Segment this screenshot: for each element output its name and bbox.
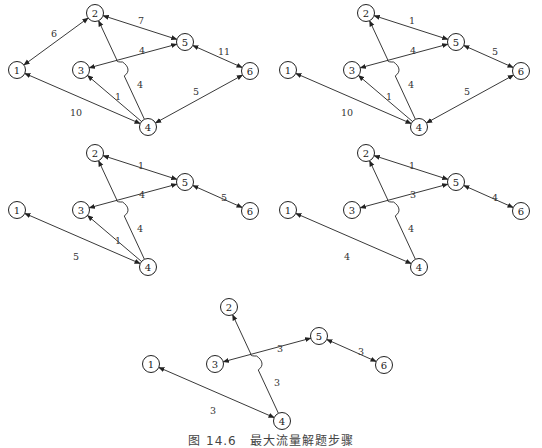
node-label: 6 [518,66,524,77]
node-5: 5 [448,34,465,51]
edge-3-5 [360,44,448,68]
edge-4-2 [370,161,416,260]
node-1: 1 [280,62,297,79]
node-1: 1 [143,356,160,373]
edge-5-6 [464,185,513,207]
edge-1-4 [296,73,411,123]
edge-weight-3-5: 4 [139,45,145,56]
node-4: 4 [140,119,157,136]
node-2: 2 [358,145,375,162]
edge-5-6 [327,339,376,361]
edge-weight-3-5: 4 [139,189,145,200]
edge-weight-4-3: 1 [386,91,392,102]
edge-weight-1-4: 10 [70,107,82,118]
edge-weight-2-5: 7 [138,15,144,26]
edge-1-2 [24,18,88,65]
edge-weight-1-4: 3 [210,405,216,416]
node-label: 4 [279,416,285,427]
edge-weight-2-5: 1 [409,15,415,26]
node-6: 6 [376,357,393,374]
node-3: 3 [344,202,361,219]
edge-4-2 [233,315,279,414]
edge-weight-4-3: 1 [115,235,121,246]
edge-1-4 [25,213,140,263]
node-6: 6 [513,203,530,220]
edge-1-4 [296,213,411,263]
node-5: 5 [448,174,465,191]
node-label: 5 [453,37,459,48]
node-label: 2 [363,148,369,159]
edge-weight-1-4: 5 [73,251,79,262]
node-label: 5 [453,177,459,188]
node-label: 5 [182,37,188,48]
node-label: 6 [247,206,253,217]
node-label: 6 [381,360,387,371]
edge-weight-3-5: 3 [277,343,283,354]
edge-weight-1-2: 6 [51,28,57,39]
node-label: 2 [92,8,98,19]
edge-weight-4-2: 4 [408,223,414,234]
node-3: 3 [73,202,90,219]
edge-3-5 [223,338,311,362]
node-label: 4 [145,122,151,133]
node-label: 3 [78,65,84,76]
node-2: 2 [87,5,104,22]
node-4: 4 [411,119,428,136]
panel-step-3: 145514123456 [9,145,259,276]
node-label: 1 [14,205,20,216]
node-label: 4 [416,122,422,133]
node-2: 2 [87,145,104,162]
node-label: 2 [226,302,232,313]
panel-step-5: 3333123456 [143,299,393,430]
edge-1-4 [25,73,140,123]
edge-weight-4-2: 4 [408,79,414,90]
edge-5-6 [193,185,242,207]
edge-3-5 [360,184,448,208]
node-label: 2 [92,148,98,159]
edge-weight-1-4: 4 [344,251,350,262]
node-4: 4 [411,259,428,276]
edge-4-6 [426,75,513,123]
node-label: 2 [363,8,369,19]
node-2: 2 [358,5,375,22]
node-4: 4 [274,413,291,430]
panel-step-1: 6741110145123456 [9,5,259,136]
edge-3-5 [89,44,177,68]
edge-weight-4-6: 5 [193,86,199,97]
node-label: 3 [349,65,355,76]
node-label: 3 [212,359,218,370]
edge-weight-4-2: 4 [137,223,143,234]
edge-weight-5-6: 5 [221,192,227,203]
node-label: 3 [349,205,355,216]
node-1: 1 [280,202,297,219]
edge-1-4 [159,367,274,417]
node-label: 5 [182,177,188,188]
node-label: 4 [145,262,151,273]
node-label: 1 [285,65,291,76]
node-5: 5 [177,34,194,51]
node-3: 3 [73,62,90,79]
node-1: 1 [9,62,26,79]
edge-weight-1-4: 10 [341,107,353,118]
panel-step-2: 14510145123456 [280,5,530,136]
node-label: 6 [247,66,253,77]
edge-5-6 [464,45,513,67]
node-4: 4 [140,259,157,276]
edge-weight-4-6: 5 [464,86,470,97]
node-3: 3 [344,62,361,79]
node-5: 5 [311,328,328,345]
node-label: 6 [518,206,524,217]
edge-weight-4-2: 4 [137,79,143,90]
node-label: 1 [285,205,291,216]
edge-weight-4-3: 1 [115,91,121,102]
edge-weight-5-6: 4 [492,192,498,203]
edge-weight-5-6: 11 [218,46,230,57]
node-label: 3 [78,205,84,216]
node-1: 1 [9,202,26,219]
node-6: 6 [242,203,259,220]
edge-weight-2-5: 1 [138,160,144,171]
node-6: 6 [513,63,530,80]
node-5: 5 [177,174,194,191]
edge-weight-2-5: 1 [409,160,415,171]
